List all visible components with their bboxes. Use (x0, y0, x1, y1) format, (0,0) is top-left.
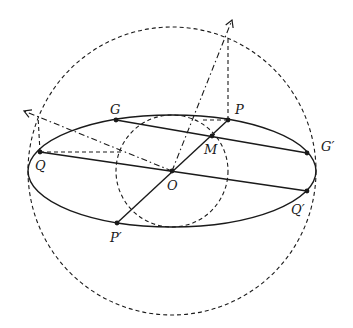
label-M: M (203, 142, 218, 157)
ray-upper (172, 20, 232, 171)
label-G-prime: G′ (321, 139, 334, 154)
label-O: O (167, 178, 178, 193)
point-O (170, 169, 175, 174)
label-Q: Q (35, 158, 46, 173)
diagram-canvas: G P M G′ Q O Q′ P′ (0, 0, 353, 328)
point-Q-prime (305, 189, 310, 194)
point-Q (38, 150, 43, 155)
point-M (210, 134, 215, 139)
label-Q-prime: Q′ (291, 202, 305, 217)
point-G-prime (305, 151, 310, 156)
point-P-prime (115, 221, 120, 226)
projection-Q-vertical (38, 116, 40, 152)
ellipse-construction-diagram: G P M G′ Q O Q′ P′ (0, 0, 353, 328)
label-G: G (110, 102, 120, 117)
point-G (114, 118, 119, 123)
point-P (226, 118, 231, 123)
label-P-prime: P′ (109, 230, 122, 245)
label-P: P (234, 102, 244, 117)
